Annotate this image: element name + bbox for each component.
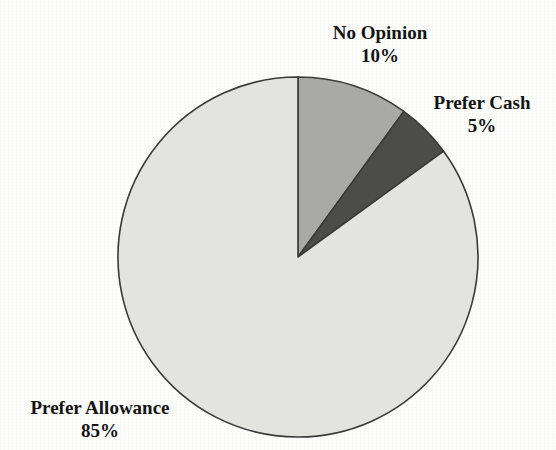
pie-label-no-opinion: No Opinion 10%: [304, 21, 456, 67]
pie-label-prefer-cash-text: Prefer Cash: [434, 92, 531, 113]
pie-chart-svg: [0, 0, 556, 450]
pie-label-no-opinion-text: No Opinion: [333, 22, 428, 43]
pie-label-prefer-allowance-text: Prefer Allowance: [30, 397, 169, 418]
pie-label-prefer-cash-value: 5%: [408, 114, 556, 137]
pie-chart-figure: No Opinion 10% Prefer Cash 5% Prefer All…: [0, 0, 556, 450]
pie-label-prefer-allowance-value: 85%: [2, 419, 198, 442]
pie-label-no-opinion-value: 10%: [304, 44, 456, 67]
pie-label-prefer-cash: Prefer Cash 5%: [408, 91, 556, 137]
pie-label-prefer-allowance: Prefer Allowance 85%: [2, 396, 198, 442]
